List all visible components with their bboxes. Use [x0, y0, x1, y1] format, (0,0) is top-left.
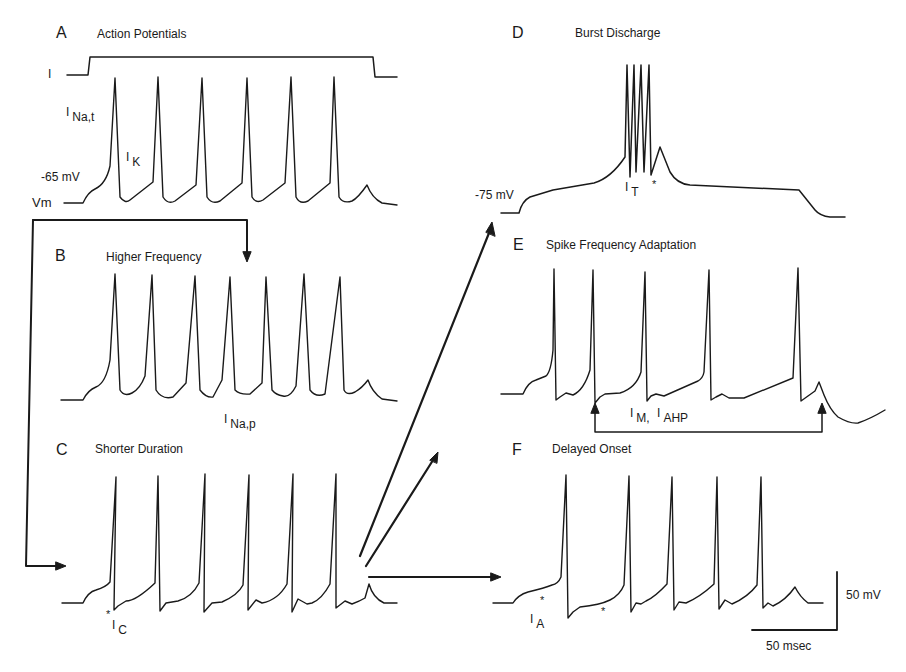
panel-d-letter: D: [512, 24, 524, 42]
panel-f-title: Delayed Onset: [552, 442, 631, 456]
current-t: IT: [625, 180, 639, 194]
panel-e-title: Spike Frequency Adaptation: [546, 238, 696, 252]
panel-f-star-1: *: [540, 594, 544, 606]
vm-label: Vm: [32, 195, 52, 210]
arrow-c-to-e: [366, 457, 435, 566]
current-c: IC: [112, 618, 127, 632]
panel-c-star: *: [106, 608, 110, 620]
arrow-a-to-c: [26, 220, 62, 566]
panel-b-letter: B: [55, 247, 66, 265]
scale-bar-voltage: 50 mV: [846, 588, 881, 602]
panel-f-letter: F: [512, 441, 522, 459]
panel-c-vm-trace: [62, 474, 397, 612]
panel-a-letter: A: [56, 24, 67, 42]
panel-a-current-step: [67, 57, 397, 77]
panel-b-vm-trace: [61, 274, 397, 401]
panel-b-title: Higher Frequency: [106, 250, 201, 264]
current-k: IK: [126, 150, 140, 164]
panel-a-vm-trace: [64, 77, 397, 205]
rest-potential-a: -65 mV: [41, 170, 80, 184]
arrowhead-c: [56, 562, 66, 570]
scale-bar-time: 50 msec: [766, 639, 811, 653]
current-a: IA: [530, 612, 544, 626]
arrowhead-f: [491, 573, 501, 581]
current-m-ahp: IM, IAHP: [630, 406, 688, 420]
arrow-c-to-d: [360, 228, 491, 556]
panel-e-vm-trace: [501, 268, 885, 423]
arrowhead-b: [243, 252, 251, 262]
panel-d-star: *: [652, 178, 656, 190]
bracket-arrowhead-right: [818, 403, 826, 413]
panel-d-title: Burst Discharge: [575, 26, 660, 40]
scale-bar: [752, 572, 837, 630]
arrowhead-d: [486, 222, 495, 236]
panel-d-vm-trace: [501, 65, 845, 217]
panel-a-title: Action Potentials: [97, 27, 186, 41]
panel-f-star-2: *: [601, 605, 605, 617]
traces-canvas: [0, 0, 906, 672]
rest-potential-d: -75 mV: [475, 188, 514, 202]
current-na-t: INa,t: [66, 105, 94, 119]
panel-e-letter: E: [513, 236, 524, 254]
current-na-p: INa,p: [224, 412, 256, 426]
panel-c-letter: C: [56, 441, 68, 459]
panel-c-title: Shorter Duration: [95, 442, 183, 456]
neuron-firing-patterns-figure: A Action Potentials I -65 mV Vm INa,t IK…: [0, 0, 906, 672]
bracket-arrowhead-left: [591, 403, 599, 413]
current-label: I: [48, 67, 51, 81]
